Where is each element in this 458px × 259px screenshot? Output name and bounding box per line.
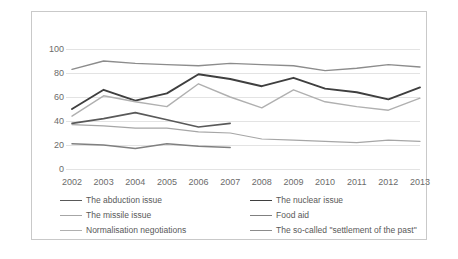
legend-color-swatch (60, 215, 82, 216)
legend-item-label: The abduction issue (86, 195, 162, 205)
legend-item[interactable]: The missile issue (60, 210, 151, 220)
series-line-0 (72, 113, 230, 127)
x-axis-tick-label: 2003 (87, 178, 121, 187)
x-axis-tick-label: 2011 (340, 178, 374, 187)
legend-item[interactable]: Normalisation negotiations (60, 225, 186, 235)
x-axis-tick-label: 2005 (150, 178, 184, 187)
y-axis-tick-label: 100 (38, 45, 64, 54)
legend-item[interactable]: The abduction issue (60, 195, 162, 205)
y-axis-tick-label: 80 (38, 69, 64, 78)
legend-item[interactable]: The nuclear issue (250, 195, 343, 205)
y-axis-tick-label: 0 (38, 165, 64, 174)
legend-color-swatch (60, 200, 82, 201)
series-line-2 (72, 125, 420, 143)
legend-color-swatch (250, 230, 272, 231)
y-axis-tick-label: 40 (38, 117, 64, 126)
x-axis-tick-label: 2009 (276, 178, 310, 187)
chart-card: 020406080100 200220032004200520062007200… (31, 11, 427, 240)
legend-item[interactable]: The so-called "settlement of the past" (250, 225, 417, 235)
x-axis-tick-label: 2010 (308, 178, 342, 187)
y-axis-tick-label: 60 (38, 93, 64, 102)
y-axis-tick-label: 20 (38, 141, 64, 150)
x-axis-tick-label: 2013 (403, 178, 437, 187)
x-axis-tick-label: 2004 (118, 178, 152, 187)
x-axis-tick-label: 2006 (182, 178, 216, 187)
legend-item-label: The missile issue (86, 210, 151, 220)
legend-item-label: Normalisation negotiations (86, 225, 186, 235)
legend-item-label: The nuclear issue (276, 195, 343, 205)
legend-color-swatch (250, 200, 272, 201)
series-line-1 (72, 74, 420, 109)
x-axis-tick-label: 2007 (213, 178, 247, 187)
legend-color-swatch (250, 215, 272, 216)
chart-legend: The abduction issueThe missile issueNorm… (54, 195, 420, 239)
series-line-4 (72, 84, 420, 116)
legend-item-label: The so-called "settlement of the past" (276, 225, 417, 235)
x-axis-tick-label: 2002 (55, 178, 89, 187)
legend-color-swatch (60, 230, 82, 231)
legend-item[interactable]: Food aid (250, 210, 309, 220)
legend-item-label: Food aid (276, 210, 309, 220)
series-line-5 (72, 61, 420, 71)
x-axis-tick-label: 2008 (245, 178, 279, 187)
x-axis-tick-label: 2012 (371, 178, 405, 187)
